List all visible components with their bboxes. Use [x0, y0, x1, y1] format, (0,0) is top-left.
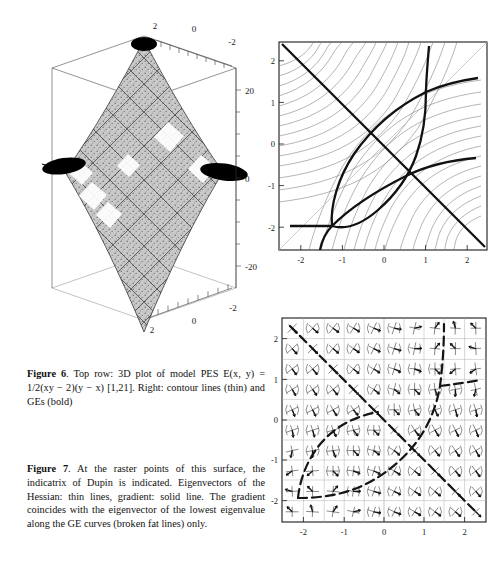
vector-x-label-0: 0	[382, 527, 386, 537]
contour-y-label-neg1: -1	[268, 181, 275, 191]
contour-y-label-0: 0	[271, 139, 275, 149]
figure7-caption: Figure 7. At the raster points of this s…	[27, 462, 265, 530]
figure6-caption-label: Figure 6	[27, 368, 66, 379]
vector-x-label-neg1: -1	[341, 527, 348, 537]
vector-x-label-neg2: -2	[300, 527, 307, 537]
contour-y-label-1: 1	[271, 98, 275, 108]
vector-y-label-neg1: -1	[271, 455, 278, 465]
contour-y-label-neg2: -2	[268, 223, 275, 233]
contour-y-label-2: 2	[271, 56, 275, 66]
surface-plot-svg: 2 0 -2 2 0 -2	[18, 6, 270, 354]
contour-x-label-2: 2	[465, 255, 469, 265]
surface-axis-z	[236, 68, 241, 288]
vector-y-label-2: 2	[274, 334, 278, 344]
contour-x-label-neg1: -1	[339, 255, 346, 265]
contour-x-label-0: 0	[382, 255, 386, 265]
surface-z-tick-0: 0	[245, 174, 250, 184]
surface-y-tick-2: 2	[153, 21, 158, 31]
vector-y-label-0: 0	[274, 415, 278, 425]
surface-plot-panel: 2 0 -2 2 0 -2	[18, 6, 270, 354]
vector-x-label-1: 1	[422, 527, 426, 537]
figure7-caption-label: Figure 7	[27, 463, 68, 474]
surface-y-tick-0: 0	[192, 24, 197, 34]
surface-x-tick-0: 0	[192, 316, 197, 326]
vector-field-svg: -2 -1 0 1 2 -2 -1 0 1 2	[270, 312, 496, 556]
figure6-caption: Figure 6. Top row: 3D plot of model PES …	[27, 367, 265, 408]
contour-x-label-neg2: -2	[297, 255, 304, 265]
contour-x-label-1: 1	[423, 255, 427, 265]
surface-z-tick-20: 20	[245, 86, 255, 96]
surface-z-tick-neg20: -20	[245, 262, 257, 272]
surface-y-tick-neg2: -2	[228, 37, 236, 47]
vector-field-panel: -2 -1 0 1 2 -2 -1 0 1 2	[270, 312, 496, 556]
surface-axis-top	[156, 40, 232, 68]
surface-x-tick-2: 2	[150, 325, 155, 335]
vector-y-label-neg2: -2	[271, 496, 278, 506]
contour-plot-svg: -2 -1 0 1 2 -2 -1 0 1 2	[266, 30, 494, 278]
vector-y-label-1: 1	[274, 375, 278, 385]
surface-x-tick-neg2: -2	[229, 303, 237, 313]
contour-plot-panel: -2 -1 0 1 2 -2 -1 0 1 2	[266, 30, 494, 278]
vector-x-label-2: 2	[462, 527, 466, 537]
